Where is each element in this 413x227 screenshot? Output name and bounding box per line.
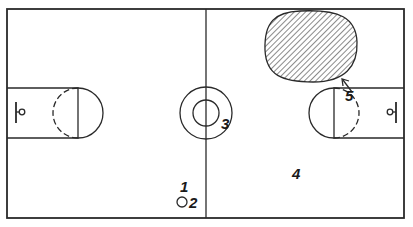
left-free-throw-lane bbox=[7, 88, 78, 138]
marker-label-4: 4 bbox=[291, 165, 301, 182]
right-basket-ring bbox=[387, 109, 393, 115]
left-basket-ring bbox=[19, 109, 25, 115]
right-free-throw-circle-outer-half bbox=[309, 88, 334, 138]
marker-label-3: 3 bbox=[221, 115, 230, 132]
left-free-throw-circle-inner-half bbox=[53, 88, 78, 138]
ball-circle bbox=[177, 197, 187, 207]
shaded-zone bbox=[265, 11, 357, 82]
court-diagram: 1 2 3 4 5 bbox=[0, 0, 413, 227]
marker-label-2: 2 bbox=[188, 194, 198, 211]
marker-label-1: 1 bbox=[180, 178, 188, 195]
left-free-throw-circle-outer-half bbox=[78, 88, 103, 138]
marker-label-5: 5 bbox=[345, 87, 354, 104]
